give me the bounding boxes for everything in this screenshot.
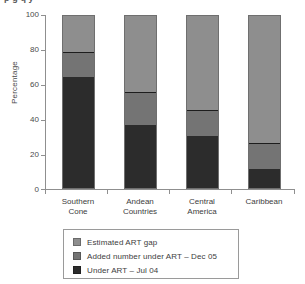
bar-segment-added-under-art xyxy=(62,52,95,77)
x-label-caribbean: Caribbean xyxy=(231,197,297,207)
legend-label-estimated-art-gap: Estimated ART gap xyxy=(87,238,157,247)
x-label-andean-countries: Andean Countries xyxy=(107,197,173,216)
x-label-central-america: Central America xyxy=(169,197,235,216)
y-tick-label-100: 100 xyxy=(17,11,39,19)
bar-segment-added-under-art xyxy=(186,110,219,136)
bar-segment-added-under-art xyxy=(124,92,157,125)
x-tick-mark-2 xyxy=(169,190,170,194)
legend-item-added-under-art: Added number under ART – Dec 05 xyxy=(73,250,217,262)
y-axis-line xyxy=(45,15,46,189)
x-tick-mark-4 xyxy=(294,190,295,194)
stacked-bar-chart: Percentage 100 80 60 40 20 0 xyxy=(0,0,305,200)
x-label-line-2: Countries xyxy=(107,207,173,217)
x-label-southern-cone: Southern Cone xyxy=(45,197,111,216)
x-label-line-2: Cone xyxy=(45,207,111,217)
bar-segment-estimated-art-gap xyxy=(186,15,219,110)
x-tick-mark-1 xyxy=(107,190,108,194)
bar-segment-under-art xyxy=(248,169,281,189)
legend-item-under-art: Under ART – Jul 04 xyxy=(73,264,158,276)
x-label-line-1: Central xyxy=(169,197,235,207)
legend-swatch-estimated-art-gap xyxy=(73,238,81,246)
x-label-line-2: America xyxy=(169,207,235,217)
legend-swatch-under-art xyxy=(73,266,81,274)
y-tick-label-40: 40 xyxy=(17,116,39,124)
bar-segment-added-under-art xyxy=(248,143,281,169)
x-axis-line xyxy=(45,189,295,190)
bar-segment-under-art xyxy=(62,77,95,189)
y-tick-label-20: 20 xyxy=(17,151,39,159)
bar-segment-under-art xyxy=(186,136,219,189)
bar-segment-estimated-art-gap xyxy=(124,15,157,92)
legend-label-added-under-art: Added number under ART – Dec 05 xyxy=(87,252,217,261)
y-tick-label-0: 0 xyxy=(17,186,39,194)
chart-legend: Estimated ART gap Added number under ART… xyxy=(63,229,239,279)
bar-segment-estimated-art-gap xyxy=(248,15,281,143)
legend-item-estimated-art-gap: Estimated ART gap xyxy=(73,236,157,248)
y-tick-label-80: 80 xyxy=(17,46,39,54)
bar-segment-under-art xyxy=(124,125,157,189)
bar-segment-estimated-art-gap xyxy=(62,15,95,52)
y-tick-label-60: 60 xyxy=(17,81,39,89)
x-label-line-1: Caribbean xyxy=(231,197,297,207)
x-label-line-1: Andean xyxy=(107,197,173,207)
x-label-line-1: Southern xyxy=(45,197,111,207)
legend-label-under-art: Under ART – Jul 04 xyxy=(87,266,158,275)
x-tick-mark-3 xyxy=(231,190,232,194)
x-tick-mark-0 xyxy=(45,190,46,194)
legend-swatch-added-under-art xyxy=(73,252,81,260)
